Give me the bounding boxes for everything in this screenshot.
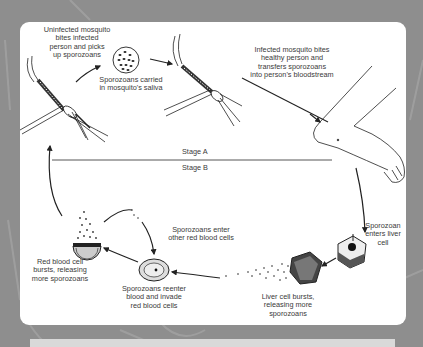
label-enter-other-rbc: Sporozoans enter other red blood cells [160,226,242,243]
label-enters-liver: Sporozoan enters liver cell [360,222,406,247]
released-sporozoans [131,209,139,219]
human-arm-icon [313,66,404,182]
bursting-red-blood-cell-icon [73,211,101,260]
arrow-to-infected-mosquito [150,59,172,64]
bottom-strip [30,339,395,347]
label-saliva: Sporozoans carried in mosquito's saliva [96,76,166,93]
red-blood-cell-icon [139,259,169,281]
bursting-liver-cell-icon [225,252,322,284]
diagram-card: Uninfected mosquito bites infected perso… [20,22,406,325]
label-reenter-blood: Sporozoans reenter blood and invade red … [116,285,192,310]
arrow-to-burst-liver [322,258,336,266]
arrow-to-red-blood-cell [172,272,220,278]
label-liver-bursts: Liver cell bursts, releasing more sporoz… [258,293,318,318]
arrow-to-burst-rbc [104,248,138,262]
label-rbc-bursts: Red blood cell bursts, releasing more sp… [24,258,96,283]
stage-b-label: Stage B [182,163,208,172]
arrow-to-uninfected-mosquito [49,146,62,216]
stage-a-label: Stage A [182,147,208,156]
arrow-down-to-rbc [142,222,154,254]
arrow-to-other-rbc [104,210,132,222]
label-infected-mosquito: Infected mosquito bites healthy person a… [244,46,340,80]
label-uninfected-mosquito: Uninfected mosquito bites infected perso… [32,26,122,60]
